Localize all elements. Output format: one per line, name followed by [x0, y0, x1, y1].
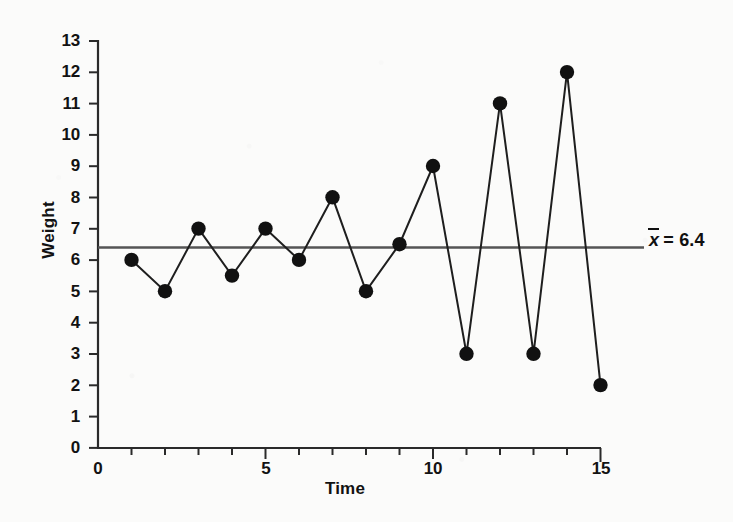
data-point	[325, 190, 339, 204]
data-point	[593, 378, 607, 392]
data-point	[359, 284, 373, 298]
y-axis-title: Weight	[39, 175, 59, 285]
data-point	[459, 347, 473, 361]
data-point	[526, 347, 540, 361]
data-point	[225, 268, 239, 282]
data-point	[191, 221, 205, 235]
y-tick-label-12: 12	[38, 62, 80, 82]
line-chart-plot	[0, 0, 733, 522]
data-point	[292, 253, 306, 267]
x-axis-ticks	[98, 440, 601, 462]
mean-line-annotation: x= 6.4	[648, 230, 707, 251]
x-axis-title: Time	[255, 479, 435, 499]
x-tick-label-5: 5	[246, 459, 286, 479]
mean-value-label: = 6.4	[663, 230, 705, 251]
y-axis-ticks	[89, 41, 98, 448]
data-point	[560, 65, 574, 79]
y-tick-label-11: 11	[38, 94, 80, 114]
x-tick-label-15: 15	[581, 459, 621, 479]
data-point	[392, 237, 406, 251]
y-tick-label-10: 10	[38, 125, 80, 145]
data-point	[426, 159, 440, 173]
y-tick-label-13: 13	[38, 31, 80, 51]
x-tick-label-0: 0	[78, 459, 118, 479]
data-point	[158, 284, 172, 298]
data-point	[258, 221, 272, 235]
data-point	[124, 253, 138, 267]
x-bar-symbol: x	[648, 230, 660, 250]
y-tick-label-1: 1	[38, 407, 80, 427]
data-point	[493, 96, 507, 110]
y-tick-label-5: 5	[38, 282, 80, 302]
chart-figure: 13 12 11 10 9 8 7 6 5 4 3 2 1 0 0 5 10 1…	[0, 0, 733, 522]
x-tick-label-10: 10	[413, 459, 453, 479]
y-tick-label-9: 9	[38, 156, 80, 176]
y-tick-label-2: 2	[38, 376, 80, 396]
y-tick-label-3: 3	[38, 344, 80, 364]
y-tick-label-4: 4	[38, 313, 80, 333]
y-tick-label-0: 0	[38, 438, 80, 458]
